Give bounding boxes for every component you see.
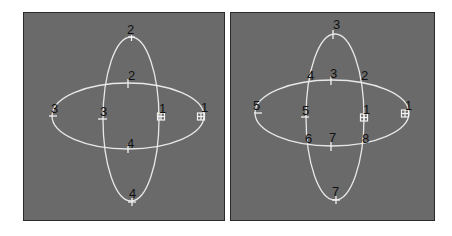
right-label-h-right: 1 — [405, 98, 412, 113]
right-label-h-bottom: 7 — [329, 130, 336, 145]
left-label-v-left: 3 — [100, 104, 107, 119]
right-label-x-bottom-right: 8 — [362, 131, 369, 146]
right-label-h-left: 5 — [253, 98, 260, 113]
right-diagram: 3 4 3 2 5 5 1 1 6 7 8 7 — [253, 17, 412, 204]
left-diagram: 2 2 3 3 1 1 4 4 — [49, 22, 208, 206]
right-label-x-top-left: 4 — [307, 68, 314, 83]
left-label-h-left: 3 — [51, 101, 58, 116]
diagram-overlay: 2 2 3 3 1 1 4 4 3 4 3 — [0, 0, 452, 236]
right-label-v-bottom: 7 — [332, 184, 339, 199]
left-label-v-top: 2 — [127, 22, 134, 37]
left-label-h-right: 1 — [201, 100, 208, 115]
left-label-h-top: 2 — [128, 68, 135, 83]
right-label-v-right: 1 — [363, 102, 370, 117]
left-label-h-bottom: 4 — [127, 136, 134, 151]
left-label-v-right: 1 — [159, 101, 166, 116]
right-vertical-ellipse — [306, 34, 364, 200]
right-label-v-top: 3 — [333, 17, 340, 32]
left-label-v-bottom: 4 — [129, 186, 136, 201]
right-label-v-left: 5 — [302, 103, 309, 118]
right-label-x-top-right: 2 — [361, 68, 368, 83]
right-label-h-top: 3 — [330, 66, 337, 81]
right-label-x-bottom-left: 6 — [305, 131, 312, 146]
left-vertical-ellipse — [103, 37, 159, 201]
